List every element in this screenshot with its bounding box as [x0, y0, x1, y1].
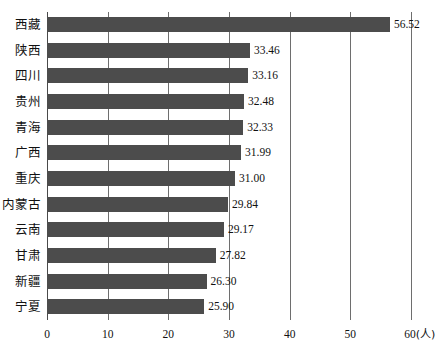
category-label: 广西 — [15, 145, 41, 161]
category-label: 内蒙古 — [2, 197, 41, 213]
bar-value-label: 27.82 — [220, 246, 246, 264]
category-label: 陕西 — [15, 43, 41, 59]
bar-chart: 西藏陕西四川贵州青海广西重庆内蒙古云南甘肃新疆宁夏 56.5233.4633.1… — [0, 0, 446, 348]
bar — [47, 68, 248, 83]
bar-row: 29.17 — [47, 217, 411, 243]
bar-value-label: 56.52 — [394, 15, 420, 33]
bar-rows: 56.5233.4633.1632.4832.3331.9931.0029.84… — [47, 12, 411, 320]
bar-row: 32.48 — [47, 89, 411, 115]
bar-value-label: 25.90 — [208, 297, 234, 315]
x-tick-label-50: 50 — [345, 326, 357, 342]
bar — [47, 43, 250, 58]
bar-row: 32.33 — [47, 115, 411, 141]
x-tick-value: 60 — [404, 328, 416, 340]
bar-value-label: 31.00 — [239, 169, 265, 187]
bar-value-label: 31.99 — [245, 143, 271, 161]
bar-row: 56.52 — [47, 12, 411, 38]
bar — [47, 248, 216, 263]
x-tick-label-20: 20 — [163, 326, 175, 342]
x-tick-label-0: 0 — [44, 326, 50, 342]
gridline-60 — [411, 12, 412, 320]
category-axis-labels: 西藏陕西四川贵州青海广西重庆内蒙古云南甘肃新疆宁夏 — [0, 12, 44, 320]
plot-area: 56.5233.4633.1632.4832.3331.9931.0029.84… — [47, 12, 411, 320]
category-label: 重庆 — [15, 171, 41, 187]
bar-row: 25.90 — [47, 294, 411, 320]
bar-row: 29.84 — [47, 192, 411, 218]
x-tick-label-30: 30 — [223, 326, 235, 342]
bar-row: 31.99 — [47, 140, 411, 166]
bar-row: 26.30 — [47, 269, 411, 295]
bar-value-label: 29.17 — [228, 220, 254, 238]
bar — [47, 94, 244, 109]
value-axis-ticks: 0102030405060(人) — [0, 322, 446, 348]
bar — [47, 120, 243, 135]
bar — [47, 299, 204, 314]
bar-row: 33.46 — [47, 38, 411, 64]
bar-value-label: 32.33 — [247, 118, 273, 136]
bar — [47, 197, 228, 212]
category-label: 宁夏 — [15, 299, 41, 315]
x-tick-label-10: 10 — [102, 326, 114, 342]
x-tick-label-60: 60(人) — [404, 326, 435, 343]
x-axis-unit: (人) — [416, 328, 436, 341]
bar — [47, 17, 390, 32]
bar-row: 31.00 — [47, 166, 411, 192]
bar-value-label: 33.16 — [252, 66, 278, 84]
category-label: 青海 — [15, 120, 41, 136]
bar — [47, 274, 207, 289]
bar — [47, 145, 241, 160]
bar-value-label: 26.30 — [211, 272, 237, 290]
category-label: 西藏 — [15, 17, 41, 33]
category-label: 四川 — [15, 68, 41, 84]
x-tick-label-40: 40 — [284, 326, 296, 342]
bar-row: 27.82 — [47, 243, 411, 269]
bar-value-label: 33.46 — [254, 41, 280, 59]
category-label: 甘肃 — [15, 248, 41, 264]
bar — [47, 171, 235, 186]
category-label: 新疆 — [15, 274, 41, 290]
bar-value-label: 29.84 — [232, 195, 258, 213]
bar-row: 33.16 — [47, 63, 411, 89]
bar — [47, 222, 224, 237]
category-label: 云南 — [15, 222, 41, 238]
bar-value-label: 32.48 — [248, 92, 274, 110]
category-label: 贵州 — [15, 94, 41, 110]
